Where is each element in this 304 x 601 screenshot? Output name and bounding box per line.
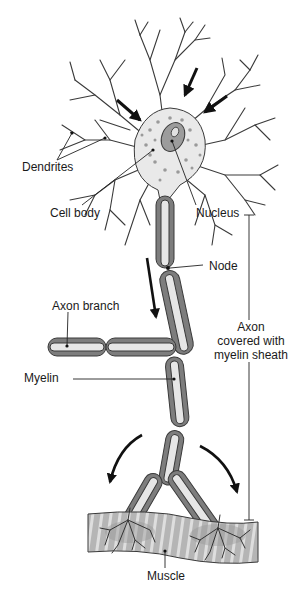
label-myelin: Myelin: [24, 371, 59, 385]
label-nucleus: Nucleus: [196, 206, 239, 220]
label-axon-line2: covered with: [212, 334, 290, 348]
label-node: Node: [209, 259, 238, 273]
label-axon-line1: Axon: [212, 320, 290, 334]
label-dendrites: Dendrites: [22, 160, 73, 174]
label-axon-myelin-sheath: Axon covered with myelin sheath: [212, 320, 290, 362]
label-muscle: Muscle: [147, 569, 185, 583]
node-dot: [166, 266, 170, 270]
label-cell-body: Cell body: [50, 206, 100, 220]
axon-myelin-segments: [48, 196, 228, 547]
neuron-diagram: [0, 0, 304, 601]
label-axon-line3: myelin sheath: [212, 348, 290, 362]
label-axon-branch: Axon branch: [52, 299, 119, 313]
